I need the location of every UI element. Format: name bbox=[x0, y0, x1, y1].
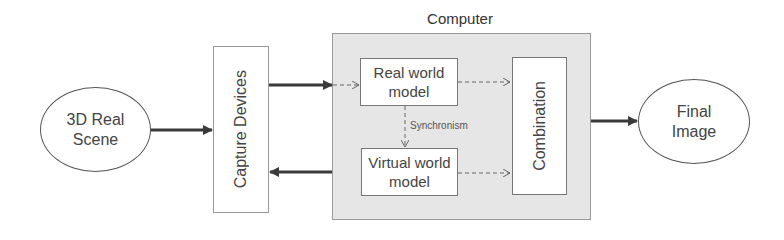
final-line2: Image bbox=[672, 122, 716, 142]
final-image-node: Final Image bbox=[638, 79, 750, 164]
scene-line1: 3D Real bbox=[67, 110, 125, 130]
real-model-line1: Real world bbox=[374, 63, 445, 82]
real-model-line2: model bbox=[374, 82, 445, 101]
scene-line2: Scene bbox=[67, 130, 125, 150]
synchronism-label: Synchronism bbox=[410, 120, 468, 131]
virtual-model-line2: model bbox=[368, 172, 450, 191]
capture-devices-label: Capture Devices bbox=[232, 70, 250, 188]
combination-label: Combination bbox=[531, 81, 549, 171]
real-world-model-box: Real world model bbox=[360, 58, 458, 106]
capture-devices-box: Capture Devices bbox=[213, 46, 269, 213]
scene-node: 3D Real Scene bbox=[40, 87, 151, 172]
virtual-model-line1: Virtual world bbox=[368, 153, 450, 172]
final-line1: Final bbox=[672, 102, 716, 122]
combination-box: Combination bbox=[512, 57, 567, 195]
virtual-world-model-box: Virtual world model bbox=[361, 148, 458, 196]
